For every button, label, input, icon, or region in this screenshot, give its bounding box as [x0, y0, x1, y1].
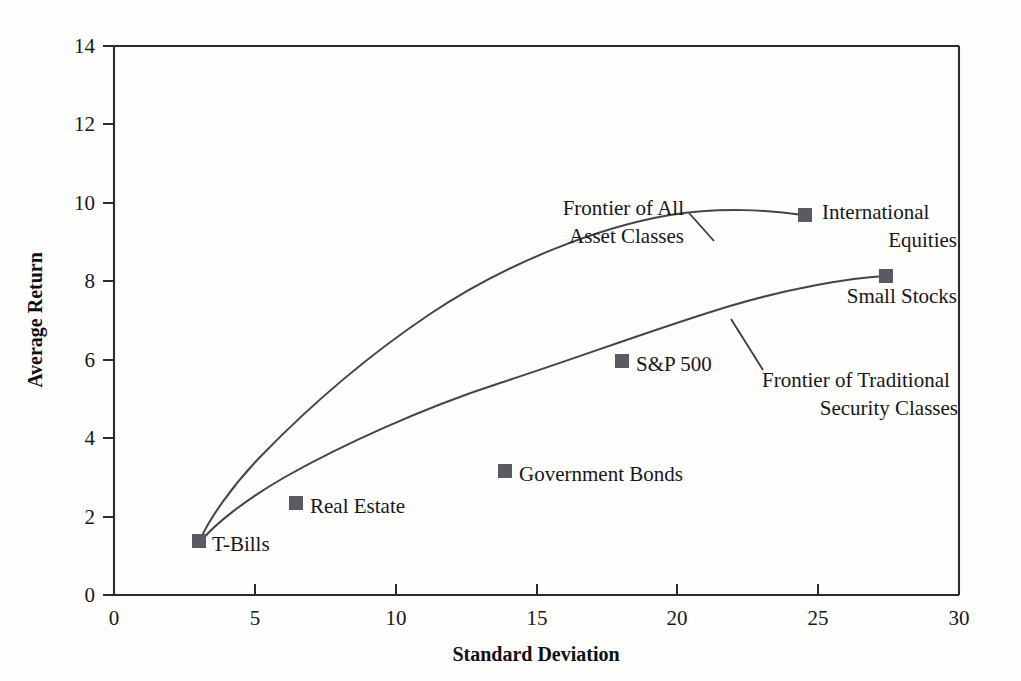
- marker-government-bonds[interactable]: [498, 464, 512, 478]
- y-tick-label-0: 0: [85, 583, 96, 607]
- x-axis-title: Standard Deviation: [452, 643, 619, 665]
- y-tick-label-12: 12: [74, 112, 95, 136]
- leader-line-traditional-security-classes: [731, 319, 763, 370]
- x-tick-label-0: 0: [109, 606, 120, 630]
- y-tick-label-6: 6: [85, 348, 96, 372]
- x-tick-label-30: 30: [949, 606, 970, 630]
- leader-line-all-asset-classes: [689, 213, 714, 241]
- x-tick-label-15: 15: [527, 606, 548, 630]
- scatter-chart: 14 12 10 8 6 4 2 0 0 5 10 15 20 25 30 St…: [0, 0, 1021, 681]
- point-label-international-equities-line2: Equities: [888, 228, 957, 252]
- point-label-real-estate: Real Estate: [310, 494, 405, 518]
- marker-real-estate[interactable]: [289, 496, 303, 510]
- y-axis-ticks: 14 12 10 8 6 4 2 0: [74, 34, 114, 607]
- point-label-international-equities-line1: International: [822, 200, 929, 224]
- point-label-sp-500: S&P 500: [636, 352, 712, 376]
- data-point-international-equities[interactable]: International Equities: [798, 200, 957, 252]
- annotation-traditional-line1: Frontier of Traditional: [762, 368, 950, 392]
- y-axis-title: Average Return: [24, 252, 47, 388]
- annotation-frontier-all-asset-classes: Frontier of All Asset Classes: [563, 196, 684, 248]
- data-point-government-bonds[interactable]: Government Bonds: [498, 462, 683, 486]
- point-label-government-bonds: Government Bonds: [519, 462, 683, 486]
- annotation-all-asset-line2: Asset Classes: [569, 224, 684, 248]
- marker-small-stocks[interactable]: [879, 269, 893, 283]
- annotation-all-asset-line1: Frontier of All: [563, 196, 684, 220]
- annotation-traditional-line2: Security Classes: [820, 396, 958, 420]
- point-label-t-bills: T-Bills: [212, 532, 270, 556]
- x-tick-label-10: 10: [386, 606, 407, 630]
- data-point-small-stocks[interactable]: Small Stocks: [847, 269, 957, 308]
- marker-international-equities[interactable]: [798, 208, 812, 222]
- data-point-real-estate[interactable]: Real Estate: [289, 494, 405, 518]
- x-axis-ticks: 0 5 10 15 20 25 30: [109, 584, 970, 630]
- x-tick-label-5: 5: [250, 606, 261, 630]
- annotation-frontier-traditional-security-classes: Frontier of Traditional Security Classes: [762, 368, 958, 420]
- y-tick-label-2: 2: [85, 505, 96, 529]
- y-tick-label-4: 4: [85, 426, 96, 450]
- x-tick-label-20: 20: [667, 606, 688, 630]
- x-tick-label-25: 25: [808, 606, 829, 630]
- y-tick-label-14: 14: [74, 34, 96, 58]
- point-label-small-stocks: Small Stocks: [847, 284, 957, 308]
- marker-sp-500[interactable]: [615, 354, 629, 368]
- data-point-sp-500[interactable]: S&P 500: [615, 352, 712, 376]
- marker-t-bills[interactable]: [192, 534, 206, 548]
- data-point-t-bills[interactable]: T-Bills: [192, 532, 270, 556]
- y-tick-label-8: 8: [85, 269, 96, 293]
- axes: [114, 46, 959, 595]
- frontier-all-asset-classes-curve: [201, 210, 803, 538]
- frontier-traditional-security-classes-curve: [202, 276, 885, 540]
- chart-canvas: 14 12 10 8 6 4 2 0 0 5 10 15 20 25 30 St…: [0, 0, 1021, 681]
- y-tick-label-10: 10: [74, 191, 95, 215]
